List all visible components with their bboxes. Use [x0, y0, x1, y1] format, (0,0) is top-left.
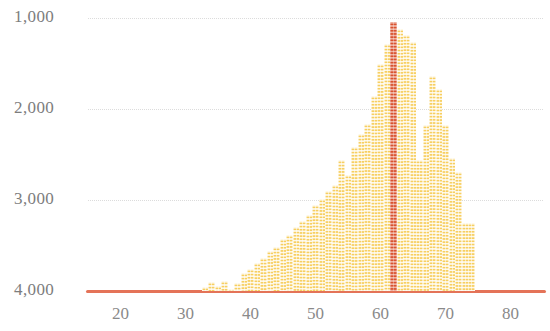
- highlighted-bar: [390, 22, 396, 291]
- rank-histogram-chart: 1,0002,0003,0004,000 20304050607080: [0, 0, 550, 331]
- x-tick-label: 80: [502, 304, 519, 324]
- x-tick-label: 20: [112, 304, 129, 324]
- x-tick-label: 40: [242, 304, 259, 324]
- x-tick-label: 60: [372, 304, 389, 324]
- x-axis: 20304050607080: [0, 0, 550, 331]
- x-tick-label: 50: [307, 304, 324, 324]
- x-tick-label: 30: [177, 304, 194, 324]
- x-tick-label: 70: [437, 304, 454, 324]
